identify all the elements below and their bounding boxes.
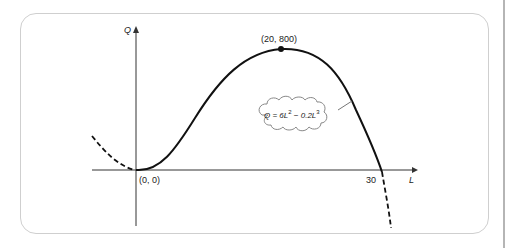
x-axis-arrow-icon <box>412 167 418 173</box>
curve-dashed-right <box>382 172 391 228</box>
y-axis-label: Q <box>124 25 131 35</box>
equation-label: Q = 6L2 − 0.2L3 <box>264 109 320 120</box>
max-point-label: (20, 800) <box>261 34 297 44</box>
callout-pointer <box>338 101 352 110</box>
production-function-chart: Q L (20, 800) (0, 0) 30 Q = 6L2 − 0.2L3 <box>0 0 509 248</box>
y-axis-arrow-icon <box>133 26 139 33</box>
x-axis-label: L <box>409 175 414 185</box>
origin-label: (0, 0) <box>139 175 160 185</box>
max-point-marker <box>278 46 284 52</box>
curve-dashed-left <box>92 136 135 170</box>
x-intercept-label: 30 <box>366 175 376 185</box>
